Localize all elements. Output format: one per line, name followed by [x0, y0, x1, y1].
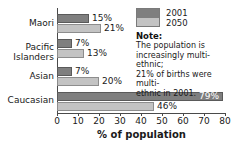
x-tick-label-30: 30 — [110, 117, 130, 126]
category-label-asian: Asian — [0, 72, 54, 82]
bar-value-pacific-islanders-2001: 7% — [75, 39, 89, 48]
legend-swatch-box — [136, 8, 160, 27]
note-body: The population is increasingly multi-eth… — [136, 41, 235, 99]
note-line-3: 21% of births were multi- — [136, 70, 235, 89]
bar-asian-2050 — [57, 77, 99, 86]
x-tick-label-70: 70 — [194, 117, 214, 126]
bar-maori-2050 — [57, 24, 101, 33]
category-label-pacific-islanders-line2: Islanders — [0, 53, 54, 63]
bar-value-maori-2001: 15% — [92, 14, 112, 23]
x-tick-label-80: 80 — [215, 117, 235, 126]
bar-caucasian-2050 — [57, 102, 154, 111]
note-line-1: The population is — [136, 41, 235, 51]
bar-chart: Maori Pacific Islanders Asian Caucasian … — [0, 0, 237, 151]
x-tick-label-0: 0 — [47, 117, 67, 126]
category-label-caucasian: Caucasian — [0, 96, 54, 106]
legend-swatch-2050 — [137, 18, 159, 27]
bar-asian-2001 — [57, 67, 72, 76]
legend-label-2050: 2050 — [166, 19, 188, 28]
note-block: Note: The population is increasingly mul… — [136, 31, 235, 99]
x-axis-title: % of population — [57, 129, 226, 140]
bar-value-caucasian-2050: 46% — [157, 102, 177, 111]
note-line-2: increasingly multi-ethnic; — [136, 51, 235, 70]
category-label-maori: Maori — [0, 19, 54, 29]
x-tick-label-50: 50 — [152, 117, 172, 126]
legend-swatch-2001 — [137, 9, 159, 18]
bar-value-pacific-islanders-2050: 13% — [87, 49, 107, 58]
x-tick-label-40: 40 — [131, 117, 151, 126]
bar-maori-2001 — [57, 14, 89, 23]
x-tick-label-10: 10 — [68, 117, 88, 126]
note-heading: Note: — [136, 31, 235, 41]
x-tick-label-60: 60 — [173, 117, 193, 126]
legend-label-2001: 2001 — [166, 9, 188, 18]
bar-value-asian-2001: 7% — [75, 67, 89, 76]
bar-value-asian-2050: 20% — [102, 77, 122, 86]
x-tick-label-20: 20 — [89, 117, 109, 126]
bar-pacific-islanders-2001 — [57, 39, 72, 48]
note-line-4: ethnic in 2001. — [136, 89, 235, 99]
bar-value-maori-2050: 21% — [104, 24, 124, 33]
bar-pacific-islanders-2050 — [57, 49, 84, 58]
